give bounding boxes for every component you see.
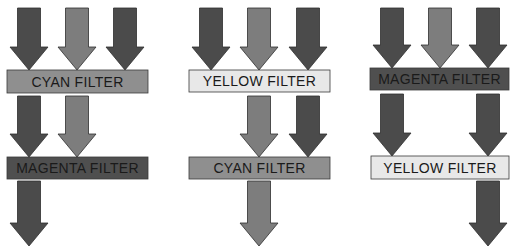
light-ray-arrow-icon xyxy=(373,8,411,68)
light-ray-arrow-icon xyxy=(240,96,278,157)
light-ray-arrow-icon xyxy=(58,96,96,157)
light-ray-arrow-icon xyxy=(289,8,327,70)
filter-yellow: YELLOW FILTER xyxy=(371,156,509,179)
light-ray-arrow-icon xyxy=(240,181,278,246)
light-ray-arrow-icon xyxy=(192,8,230,70)
filter-label: CYAN FILTER xyxy=(213,160,305,176)
light-ray-arrow-icon xyxy=(469,94,507,156)
light-ray-arrow-icon xyxy=(373,94,411,156)
filter-label: YELLOW FILTER xyxy=(383,160,496,176)
filter-label: YELLOW FILTER xyxy=(203,73,316,89)
filter-label: MAGENTA FILTER xyxy=(378,71,501,87)
filter-magenta: MAGENTA FILTER xyxy=(7,157,148,179)
light-ray-arrow-icon xyxy=(58,8,96,70)
light-ray-arrow-icon xyxy=(10,181,48,246)
filter-label: MAGENTA FILTER xyxy=(16,160,139,176)
filter-label: CYAN FILTER xyxy=(31,74,123,90)
panel-cyan-then-magenta: CYAN FILTERMAGENTA FILTER xyxy=(7,8,148,246)
light-ray-arrow-icon xyxy=(289,96,327,157)
panel-yellow-then-cyan: YELLOW FILTERCYAN FILTER xyxy=(189,8,330,246)
light-ray-arrow-icon xyxy=(469,181,507,246)
subtractive-filter-diagram: CYAN FILTERMAGENTA FILTERYELLOW FILTERCY… xyxy=(0,0,519,250)
light-ray-arrow-icon xyxy=(10,8,48,70)
light-ray-arrow-icon xyxy=(10,96,48,157)
light-ray-arrow-icon xyxy=(106,8,144,70)
light-ray-arrow-icon xyxy=(421,8,459,68)
filter-cyan: CYAN FILTER xyxy=(189,157,330,179)
light-ray-arrow-icon xyxy=(240,8,278,70)
filter-magenta: MAGENTA FILTER xyxy=(370,68,509,90)
light-ray-arrow-icon xyxy=(469,8,507,68)
filter-cyan: CYAN FILTER xyxy=(7,70,148,93)
filter-yellow: YELLOW FILTER xyxy=(189,70,330,92)
panel-magenta-then-yellow: MAGENTA FILTERYELLOW FILTER xyxy=(370,8,509,246)
